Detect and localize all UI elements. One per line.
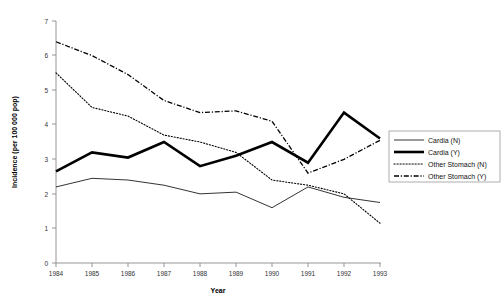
series-line-cardia-y <box>56 113 380 172</box>
x-tick-label: 1993 <box>373 270 388 277</box>
line-chart: 7 6 5 4 3 2 1 0 1984 1985 1986 1 <box>0 0 504 303</box>
legend-label-cardia-n: Cardia (N) <box>428 137 460 145</box>
x-tick-marks <box>56 263 380 267</box>
legend-label-other-stomach-y: Other Stomach (Y) <box>428 173 486 181</box>
y-tick-label: 5 <box>44 87 48 94</box>
legend-label-other-stomach-n: Other Stomach (N) <box>428 161 487 169</box>
chart-figure: 7 6 5 4 3 2 1 0 1984 1985 1986 1 <box>0 0 504 303</box>
legend: Cardia (N) Cardia (Y) Other Stomach (N) … <box>389 131 500 182</box>
x-tick-label: 1989 <box>229 270 244 277</box>
x-tick-label: 1986 <box>121 270 136 277</box>
x-tick-label: 1992 <box>337 270 352 277</box>
y-tick-label: 4 <box>44 121 48 128</box>
legend-label-cardia-y: Cardia (Y) <box>428 149 460 157</box>
y-tick-label: 7 <box>44 18 48 25</box>
x-tick-label: 1987 <box>157 270 172 277</box>
y-tick-label: 2 <box>44 191 48 198</box>
x-tick-label: 1984 <box>49 270 64 277</box>
x-tick-label: 1985 <box>85 270 100 277</box>
y-tick-label: 3 <box>44 156 48 163</box>
y-tick-label: 1 <box>44 225 48 232</box>
y-tick-labels: 7 6 5 4 3 2 1 0 <box>44 18 48 267</box>
y-axis-title: Incidence (per 100 000 pop) <box>11 96 19 188</box>
y-tick-label: 0 <box>44 260 48 267</box>
x-tick-label: 1991 <box>301 270 316 277</box>
series-line-other-stomach-n <box>56 73 380 223</box>
y-tick-marks <box>52 21 56 263</box>
y-tick-label: 6 <box>44 52 48 59</box>
x-tick-label: 1990 <box>265 270 280 277</box>
x-tick-labels: 1984 1985 1986 1987 1988 1989 1990 1991 … <box>49 270 388 277</box>
x-axis-title: Year <box>211 287 226 294</box>
x-tick-label: 1988 <box>193 270 208 277</box>
series-line-cardia-n <box>56 178 380 207</box>
